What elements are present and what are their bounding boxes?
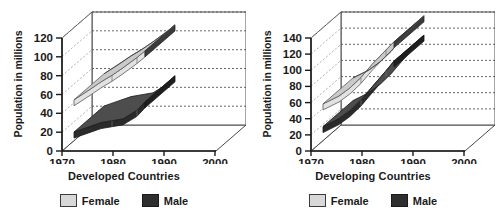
legend-item-female-right: Female	[309, 194, 369, 207]
legend-item-male-right: Male	[391, 194, 437, 207]
y-tick-labels-left: 0 20 40 60 80 100 120	[34, 32, 53, 157]
legend-swatch-male-icon	[391, 194, 408, 207]
y-axis-ticks-right	[305, 38, 311, 151]
figure-two-panel-population: Population in millions	[0, 0, 497, 222]
y-axis-ticks-left	[56, 38, 62, 151]
x-tick-label: 1980	[349, 157, 375, 164]
y-tick-label: 140	[283, 32, 302, 44]
x-tick-labels-right: 1970 1980 1990 2000	[298, 157, 477, 164]
y-tick-label: 40	[40, 107, 53, 119]
legend-swatch-male-icon	[142, 194, 159, 207]
x-tick-label: 1970	[49, 157, 75, 164]
x-axis-title-right: Developing Countries	[249, 170, 497, 182]
x-tick-label: 1990	[400, 157, 426, 164]
y-tick-label: 20	[289, 129, 302, 141]
x-tick-labels-left: 1970 1980 1990 2000	[49, 157, 228, 164]
y-tick-label: 100	[34, 51, 53, 63]
legend-item-female-left: Female	[60, 194, 120, 207]
legend-label-female: Female	[331, 195, 369, 207]
y-tick-label: 40	[289, 113, 302, 125]
x-tick-label: 2000	[451, 157, 477, 164]
y-tick-label: 120	[283, 48, 302, 60]
y-tick-label: 100	[283, 64, 302, 76]
floor-plane-right	[311, 125, 495, 151]
legend-swatch-female-icon	[60, 194, 77, 207]
panel-developed-countries: Population in millions	[0, 0, 248, 222]
legend-label-female: Female	[82, 195, 120, 207]
x-tick-label: 1990	[151, 157, 177, 164]
y-tick-label: 80	[40, 70, 53, 82]
legend-label-male: Male	[413, 195, 437, 207]
y-tick-labels-right: 0 20 40 60 80 100 120 140	[283, 32, 302, 157]
legend-right: Female Male	[249, 194, 497, 207]
x-axis-title-left: Developed Countries	[0, 170, 248, 182]
plot-area-right: 0 20 40 60 80 100 120 140 1970	[269, 4, 495, 164]
chart-svg-left: 0 20 40 60 80 100 120 1970	[20, 4, 246, 164]
y-tick-label: 0	[296, 145, 302, 157]
chart-svg-right: 0 20 40 60 80 100 120 140 1970	[269, 4, 495, 164]
x-tick-label: 1970	[298, 157, 324, 164]
plot-area-left: 0 20 40 60 80 100 120 1970	[20, 4, 246, 164]
back-wall-right	[341, 12, 495, 125]
y-tick-label: 60	[40, 89, 53, 101]
legend-item-male-left: Male	[142, 194, 188, 207]
panel-developing-countries: Population in millions	[249, 0, 497, 222]
y-tick-label: 80	[289, 80, 302, 92]
y-tick-label: 120	[34, 32, 53, 44]
y-tick-label: 0	[47, 145, 53, 157]
y-tick-label: 60	[289, 97, 302, 109]
y-tick-label: 20	[40, 126, 53, 138]
x-tick-label: 1980	[100, 157, 126, 164]
legend-swatch-female-icon	[309, 194, 326, 207]
legend-left: Female Male	[0, 194, 248, 207]
legend-label-male: Male	[164, 195, 188, 207]
x-tick-label: 2000	[202, 157, 228, 164]
